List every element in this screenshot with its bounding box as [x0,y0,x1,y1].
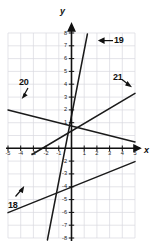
arrow-18-head [20,188,24,193]
arrow-19-head [99,38,104,43]
callout-label-18: 18 [8,200,18,210]
y-tick-6: 6 [58,55,67,61]
x-tick--4: -4 [15,150,27,156]
callout-label-20: 20 [19,77,29,87]
y-tick--5: -5 [57,196,67,202]
x-tick-5: 5 [129,150,141,156]
y-tick-5: 5 [58,68,67,74]
x-tick-4: 4 [116,150,128,156]
x-tick-2: 2 [91,150,103,156]
y-tick-8: 8 [58,30,67,36]
x-tick--2: -2 [40,150,52,156]
y-axis-label: y [60,6,65,16]
x-tick--1: -1 [53,150,65,156]
graph-canvas [0,0,156,241]
y-tick-1: 1 [58,119,67,125]
x-tick--5: -5 [2,150,14,156]
y-tick-4: 4 [58,81,67,87]
y-axis-arrow [68,24,74,31]
x-tick-1: 1 [78,150,90,156]
y-tick-7: 7 [58,42,67,48]
callout-arrows [16,38,131,196]
y-tick-2: 2 [58,106,67,112]
y-tick--2: -2 [57,158,67,164]
y-tick--7: -7 [57,222,67,228]
x-axis-label: x [144,145,149,155]
y-tick-3: 3 [58,94,67,100]
callout-label-19: 19 [114,35,124,45]
y-tick--6: -6 [57,209,67,215]
axes [6,24,140,241]
line-21 [32,93,135,154]
y-tick--3: -3 [57,170,67,176]
y-tick--8: -8 [57,235,67,241]
x-tick-3: 3 [104,150,116,156]
coordinate-graph: y x -5 -4 -3 -2 -1 1 2 3 4 5 8 7 6 5 4 3… [0,0,156,241]
x-tick--3: -3 [27,150,39,156]
line-19 [47,34,87,240]
callout-label-21: 21 [113,72,123,82]
y-tick--4: -4 [57,183,67,189]
